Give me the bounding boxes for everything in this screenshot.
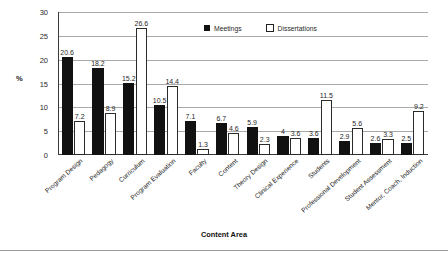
bar-value-label: 20.6 <box>60 49 74 56</box>
bar-value-label: 7.2 <box>75 113 85 120</box>
bar-value-label: 8.9 <box>106 105 116 112</box>
y-tick-label: 15 <box>0 79 48 88</box>
y-tick-label: 10 <box>0 103 48 112</box>
legend-label-dissertations: Dissertations <box>278 25 317 32</box>
y-tick-label: 0 <box>0 151 48 160</box>
bar-dissertations <box>413 111 424 155</box>
x-axis-title: Content Area <box>0 230 448 239</box>
legend-label-meetings: Meetings <box>214 25 242 32</box>
bar-value-label: 9.2 <box>414 103 424 110</box>
bar-value-label: 11.5 <box>320 92 333 99</box>
bar-meetings <box>339 141 350 155</box>
bar-value-label: 2.5 <box>401 135 411 142</box>
legend-item-meetings: Meetings <box>204 25 242 32</box>
bar-value-label: 1.3 <box>198 141 208 148</box>
bar-meetings <box>401 143 412 155</box>
x-tick-label: Content <box>216 157 238 178</box>
y-tick-label: 20 <box>0 55 48 64</box>
legend-swatch-dissertations <box>266 24 274 32</box>
bar-dissertations <box>167 86 178 155</box>
bar-meetings <box>247 127 258 155</box>
bar-value-label: 5.6 <box>352 120 362 127</box>
y-tick-label: 5 <box>0 127 48 136</box>
bar-meetings <box>216 123 227 155</box>
x-tick-label: Curriculum <box>117 157 145 184</box>
x-tick-label: Faculty <box>187 157 207 176</box>
bar-meetings <box>277 136 288 155</box>
bar-dissertations <box>136 28 147 155</box>
bar-value-label: 3.6 <box>309 130 319 137</box>
x-axis-category-labels: Program DesignPedagogyCurriculumProgram … <box>58 157 428 217</box>
bar-dissertations <box>321 100 332 155</box>
chart-figure: 051015202530 % 20.67.218.28.915.226.610.… <box>0 0 448 254</box>
bar-value-label: 4.6 <box>229 125 239 132</box>
bar-value-label: 6.7 <box>216 115 226 122</box>
bar-dissertations <box>352 128 363 155</box>
bar-dissertations <box>290 138 301 155</box>
bar-meetings <box>154 105 165 155</box>
bar-dissertations <box>105 113 116 155</box>
bar-value-label: 14.4 <box>165 78 179 85</box>
bar-dissertations <box>197 149 208 155</box>
x-tick-label: Program Design <box>44 157 84 194</box>
bar-dissertations <box>259 144 270 155</box>
bar-value-label: 10.5 <box>153 97 167 104</box>
bar-value-label: 3.6 <box>291 130 301 137</box>
x-tick-label: Mentor, Coach, Induction <box>364 157 423 211</box>
bar-dissertations <box>228 133 239 155</box>
plot-area: 20.67.218.28.915.226.610.514.47.11.36.74… <box>58 12 428 155</box>
y-axis-ticks: 051015202530 <box>0 12 58 155</box>
bottom-divider <box>0 250 448 251</box>
bar-value-label: 26.6 <box>135 20 149 27</box>
bar-value-label: 2.9 <box>340 133 350 140</box>
bar-meetings <box>308 138 319 155</box>
legend-swatch-meetings <box>204 25 210 31</box>
bar-meetings <box>92 68 103 155</box>
x-tick-label: Pedagogy <box>88 157 115 182</box>
bar-value-label: 7.1 <box>186 113 196 120</box>
chart-legend: Meetings Dissertations <box>204 24 317 32</box>
y-tick-label: 25 <box>0 31 48 40</box>
bar-meetings <box>370 143 381 155</box>
bar-meetings <box>123 83 134 155</box>
bar-value-label: 3.3 <box>383 131 393 138</box>
y-axis-title: % <box>16 74 23 83</box>
legend-item-dissertations: Dissertations <box>266 24 317 32</box>
bar-series-container: 20.67.218.28.915.226.610.514.47.11.36.74… <box>58 12 428 155</box>
y-tick-label: 30 <box>0 8 48 17</box>
x-tick-label: Students <box>307 157 331 180</box>
x-tick-label: Professional Development <box>300 157 362 214</box>
bar-dissertations <box>382 139 393 155</box>
bar-meetings <box>185 121 196 155</box>
bar-value-label: 5.9 <box>247 119 257 126</box>
bar-value-label: 2.3 <box>260 136 270 143</box>
bar-value-label: 2.6 <box>371 135 381 142</box>
bar-value-label: 18.2 <box>91 60 105 67</box>
bar-value-label: 4 <box>281 128 285 135</box>
bar-dissertations <box>74 121 85 155</box>
bar-value-label: 15.2 <box>122 75 136 82</box>
bar-meetings <box>62 57 73 155</box>
